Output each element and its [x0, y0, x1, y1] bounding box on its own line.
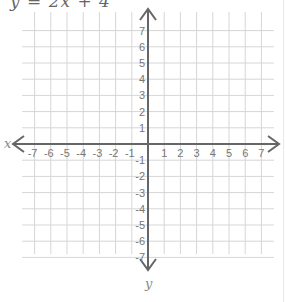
y-tick-label: 5	[139, 57, 145, 69]
x-tick-label: 7	[258, 147, 264, 159]
y-tick-label: -2	[135, 170, 145, 182]
x-tick-label: -6	[44, 147, 54, 159]
y-tick-label: 4	[139, 73, 145, 85]
right-edge-divider	[283, 0, 284, 302]
y-axis-label: y	[144, 276, 153, 291]
x-tick-label: 3	[194, 147, 200, 159]
x-tick-label: 2	[177, 147, 183, 159]
y-tick-label: -4	[135, 203, 145, 215]
x-tick-labels: -7-6-5-4-3-2-11234567	[28, 147, 265, 159]
y-tick-label: 6	[139, 41, 145, 53]
y-tick-label: -6	[135, 235, 145, 247]
y-tick-label: -7	[135, 251, 145, 263]
x-tick-label: -2	[109, 147, 119, 159]
x-tick-label: -3	[93, 147, 103, 159]
y-tick-label: 3	[139, 89, 145, 101]
x-tick-label: 1	[161, 147, 167, 159]
x-tick-label: 6	[242, 147, 248, 159]
x-tick-label: -7	[28, 147, 38, 159]
y-tick-label: 7	[139, 25, 145, 37]
x-tick-label: -5	[60, 147, 70, 159]
x-tick-label: -1	[125, 147, 135, 159]
x-tick-label: -4	[76, 147, 86, 159]
y-tick-label: 2	[139, 106, 145, 118]
x-axis-label: x	[4, 136, 12, 151]
coordinate-grid: -7-6-5-4-3-2-11234567 7654321-1-2-3-4-5-…	[0, 0, 286, 302]
x-tick-label: 4	[210, 147, 216, 159]
y-tick-label: 1	[139, 122, 145, 134]
y-tick-label: -5	[135, 219, 145, 231]
y-tick-label: -3	[135, 187, 145, 199]
y-tick-label: -1	[135, 154, 145, 166]
x-tick-label: 5	[226, 147, 232, 159]
